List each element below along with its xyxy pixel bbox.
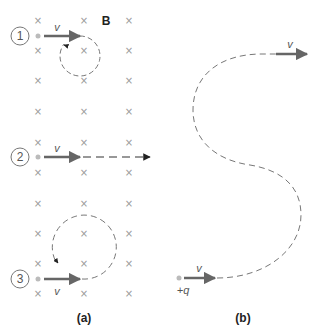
start-velocity-label: v bbox=[196, 262, 203, 274]
field-cross: × bbox=[125, 106, 133, 117]
velocity-label: v bbox=[54, 21, 61, 33]
particle-dot bbox=[36, 34, 41, 39]
field-cross: × bbox=[125, 15, 133, 26]
field-cross: × bbox=[80, 106, 88, 117]
field-cross: × bbox=[80, 198, 88, 209]
field-cross: × bbox=[125, 288, 133, 299]
field-cross: × bbox=[80, 167, 88, 178]
field-cross: × bbox=[80, 75, 88, 86]
caption-a: (a) bbox=[77, 311, 92, 325]
case-number-2: 2 bbox=[17, 150, 24, 164]
field-cross: × bbox=[125, 75, 133, 86]
end-velocity-label: v bbox=[287, 38, 294, 50]
field-label-b: B bbox=[102, 14, 111, 28]
field-cross: × bbox=[80, 45, 88, 56]
field-cross: × bbox=[125, 167, 133, 178]
magnetic-field-particle-diagram: ×××××××××××××××××××××××××××××× B 1 v 2 v… bbox=[0, 0, 315, 326]
field-cross: × bbox=[34, 106, 42, 117]
field-cross: × bbox=[80, 15, 88, 26]
circular-path-small bbox=[60, 36, 100, 76]
field-cross: × bbox=[125, 228, 133, 239]
field-cross: × bbox=[80, 288, 88, 299]
field-cross: × bbox=[34, 15, 42, 26]
path-direction-arrowhead bbox=[64, 45, 67, 46]
field-cross: × bbox=[125, 258, 133, 269]
velocity-label: v bbox=[54, 142, 61, 154]
field-cross: × bbox=[125, 45, 133, 56]
velocity-label: v bbox=[54, 285, 61, 297]
field-cross: × bbox=[125, 198, 133, 209]
field-cross: × bbox=[34, 75, 42, 86]
diagram-canvas: ×××××××××××××××××××××××××××××× B 1 v 2 v… bbox=[0, 0, 315, 326]
case-3: 3 v bbox=[11, 215, 116, 297]
field-cross: × bbox=[34, 167, 42, 178]
particle-dot bbox=[177, 276, 182, 281]
field-cross: × bbox=[34, 137, 42, 148]
caption-b: (b) bbox=[235, 311, 250, 325]
field-cross: × bbox=[34, 228, 42, 239]
path-direction-arrowhead bbox=[55, 259, 58, 263]
particle-dot bbox=[36, 277, 41, 282]
field-cross: × bbox=[80, 258, 88, 269]
field-cross: × bbox=[80, 228, 88, 239]
s-curve-path bbox=[193, 54, 301, 278]
panel-b: +q v v bbox=[177, 38, 308, 296]
field-cross: × bbox=[34, 198, 42, 209]
case-number-3: 3 bbox=[17, 272, 24, 286]
particle-dot bbox=[36, 155, 41, 160]
field-cross: × bbox=[80, 137, 88, 148]
field-cross: × bbox=[34, 45, 42, 56]
field-cross: × bbox=[34, 258, 42, 269]
field-cross: × bbox=[34, 288, 42, 299]
field-cross: × bbox=[125, 137, 133, 148]
circular-path-large bbox=[52, 215, 116, 279]
charge-label: +q bbox=[177, 284, 190, 296]
case-number-1: 1 bbox=[17, 29, 24, 43]
